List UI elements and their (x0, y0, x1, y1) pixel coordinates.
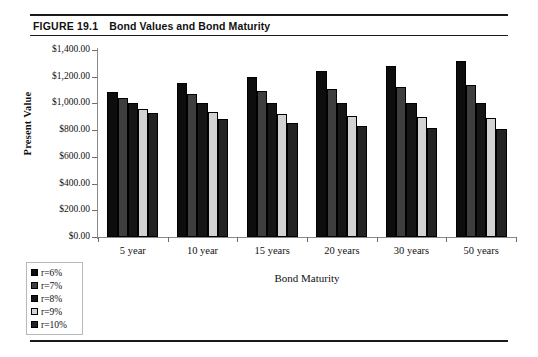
plot-area (98, 50, 516, 237)
bar (456, 61, 466, 237)
bar (476, 103, 486, 237)
x-axis-category-label: 10 year (168, 245, 238, 256)
bar (267, 103, 277, 237)
bar (287, 123, 297, 237)
legend-item: r=10% (31, 318, 78, 331)
legend-item: r=6% (31, 266, 78, 279)
legend-item-label: r=10% (41, 320, 67, 330)
chart-legend: r=6%r=7%r=8%r=9%r=10% (26, 262, 83, 335)
bar (218, 119, 228, 237)
legend-item: r=9% (31, 305, 78, 318)
bar-chart: Present Value $0.00$200.00$400.00$600.00… (0, 40, 538, 340)
y-axis-tick-label: $1,000.00 (28, 97, 90, 107)
x-axis-category-label: 15 years (237, 245, 307, 256)
legend-swatch-icon (31, 282, 38, 289)
bar (118, 98, 128, 237)
bar (327, 89, 337, 237)
x-axis-category-label: 50 years (446, 245, 516, 256)
bar (197, 103, 207, 237)
bar (417, 117, 427, 237)
legend-item: r=7% (31, 279, 78, 292)
bar (396, 87, 406, 237)
figure-title: Bond Values and Bond Maturity (109, 20, 270, 32)
y-axis-tick-label: $600.00 (28, 151, 90, 161)
bar (386, 66, 396, 237)
y-axis-tick-label: $0.00 (28, 231, 90, 241)
x-axis-tick (446, 237, 447, 242)
bar (337, 103, 347, 237)
x-axis-tick (168, 237, 169, 242)
y-axis-tick-label: $400.00 (28, 178, 90, 188)
bar (496, 129, 506, 237)
bar (128, 103, 138, 237)
x-axis-title: Bond Maturity (98, 272, 516, 284)
legend-item-label: r=9% (41, 307, 62, 317)
bar (257, 91, 267, 237)
legend-swatch-icon (31, 295, 38, 302)
legend-swatch-icon (31, 308, 38, 315)
bar (466, 85, 476, 237)
x-axis-tick (516, 237, 517, 242)
bar (148, 113, 158, 237)
x-axis-category-label: 5 year (98, 245, 168, 256)
y-axis-tick-label: $800.00 (28, 124, 90, 134)
y-axis-tick-label: $200.00 (28, 204, 90, 214)
legend-item-label: r=6% (41, 268, 62, 278)
bar (347, 116, 357, 237)
bar (357, 126, 367, 237)
legend-item: r=8% (31, 292, 78, 305)
bar (177, 83, 187, 237)
figure-rule-under-title (30, 35, 508, 36)
x-axis-tick (377, 237, 378, 242)
figure-number: FIGURE 19.1 (33, 20, 98, 32)
bar (208, 112, 218, 237)
bar (138, 109, 148, 237)
bar (406, 103, 416, 237)
bar (247, 77, 257, 237)
y-axis-tick-label: $1,200.00 (28, 71, 90, 81)
legend-swatch-icon (31, 269, 38, 276)
bar (316, 71, 326, 237)
y-axis-tick-label: $1,400.00 (28, 44, 90, 54)
x-axis-tick (237, 237, 238, 242)
figure-header: FIGURE 19.1 Bond Values and Bond Maturit… (33, 18, 270, 33)
legend-swatch-icon (31, 321, 38, 328)
y-axis-labels: $0.00$200.00$400.00$600.00$800.00$1,000.… (24, 40, 90, 250)
bar (107, 92, 117, 237)
figure-rule-top (30, 14, 508, 16)
x-axis-tick (307, 237, 308, 242)
x-axis-tick (98, 237, 99, 242)
bar (187, 94, 197, 237)
x-axis-category-label: 20 years (307, 245, 377, 256)
figure-rule-bottom (30, 340, 508, 342)
bar (427, 128, 437, 237)
bar (486, 118, 496, 237)
legend-item-label: r=8% (41, 294, 62, 304)
legend-item-label: r=7% (41, 281, 62, 291)
x-axis-category-label: 30 years (377, 245, 447, 256)
figure-page: FIGURE 19.1 Bond Values and Bond Maturit… (0, 0, 538, 357)
bar (277, 114, 287, 237)
